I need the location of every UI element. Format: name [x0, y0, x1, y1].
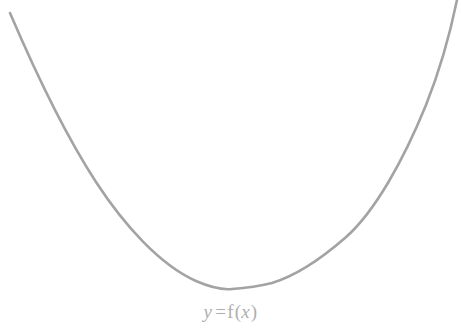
plot-background — [0, 0, 461, 335]
label-equals-sign: = — [212, 301, 227, 322]
label-close-paren: ) — [250, 301, 258, 322]
label-f-symbol: f — [227, 301, 234, 322]
figure-canvas: y=f(x) — [0, 0, 461, 335]
label-y-symbol: y — [204, 301, 213, 322]
function-curve-plot — [0, 0, 461, 335]
function-label: y=f(x) — [0, 300, 461, 324]
label-x-symbol: x — [241, 301, 250, 322]
